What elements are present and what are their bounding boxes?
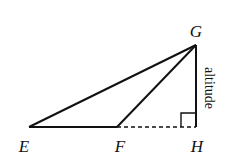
triangle-diagram: G E F H altitude <box>0 0 233 164</box>
segment-FG <box>117 45 196 127</box>
vertex-label-F: F <box>114 137 126 156</box>
vertex-label-H: H <box>190 137 205 156</box>
altitude-label: altitude <box>202 67 217 109</box>
segment-EG <box>29 45 196 127</box>
vertex-label-G: G <box>190 22 202 41</box>
right-angle-marker <box>181 113 196 127</box>
vertex-label-E: E <box>18 137 30 156</box>
